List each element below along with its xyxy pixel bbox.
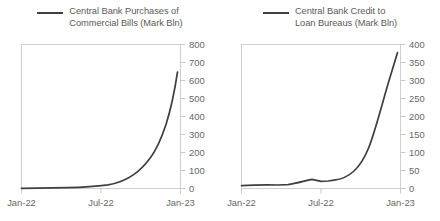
y-tick-label: 300 [409, 75, 425, 86]
x-tick-marks-right [242, 189, 401, 194]
y-tick-label: 300 [189, 129, 205, 140]
y-tick-label: 800 [189, 40, 205, 50]
plot-svg-left: 800 700 600 500 400 300 200 100 0 Jan-22… [0, 40, 220, 221]
x-tick-label: Jul-22 [88, 197, 114, 208]
y-tick-label: 50 [409, 165, 419, 176]
data-line-left [22, 72, 178, 188]
x-tick-marks-left [22, 189, 181, 194]
y-tick-label: 200 [409, 111, 425, 122]
y-tick-label: 500 [189, 93, 205, 104]
y-tick-label: 100 [409, 147, 425, 158]
y-tick-label: 100 [189, 165, 205, 176]
dual-line-chart-figure: Central Bank Purchases of Commercial Bil… [0, 0, 440, 221]
y-tick-label: 0 [409, 183, 414, 194]
y-tick-label: 400 [189, 111, 205, 122]
y-tick-label: 200 [189, 147, 205, 158]
chart-panel-left: Central Bank Purchases of Commercial Bil… [0, 0, 220, 221]
legend-label-left: Central Bank Purchases of Commercial Bil… [69, 6, 182, 29]
x-tick-label: Jan-23 [386, 197, 415, 208]
y-tick-marks-left [181, 45, 186, 189]
y-tick-marks-right [401, 45, 406, 189]
legend-left: Central Bank Purchases of Commercial Bil… [0, 6, 220, 29]
y-tick-label: 150 [409, 129, 425, 140]
plot-area-left: 800 700 600 500 400 300 200 100 0 Jan-22… [0, 40, 220, 221]
legend-right: Central Bank Credit to Loan Bureaus (Mar… [220, 6, 440, 29]
legend-line-swatch-icon [37, 12, 63, 14]
x-tick-label: Jan-23 [166, 197, 195, 208]
y-tick-label: 250 [409, 93, 425, 104]
plot-frame-right [242, 45, 401, 189]
x-tick-label: Jan-22 [7, 197, 36, 208]
plot-frame-left [22, 45, 181, 189]
x-tick-label: Jan-22 [227, 197, 256, 208]
legend-label-right: Central Bank Credit to Loan Bureaus (Mar… [295, 6, 397, 29]
plot-area-right: 400 350 300 250 200 150 100 50 0 Jan-22 … [220, 40, 440, 221]
data-line-right [242, 53, 398, 186]
y-tick-label: 600 [189, 75, 205, 86]
y-tick-label: 350 [409, 57, 425, 68]
x-tick-label: Jul-22 [308, 197, 334, 208]
y-tick-label: 700 [189, 57, 205, 68]
plot-svg-right: 400 350 300 250 200 150 100 50 0 Jan-22 … [220, 40, 440, 221]
y-tick-label: 0 [189, 183, 194, 194]
chart-panel-right: Central Bank Credit to Loan Bureaus (Mar… [220, 0, 440, 221]
legend-line-swatch-icon [263, 12, 289, 14]
y-tick-label: 400 [409, 40, 425, 50]
